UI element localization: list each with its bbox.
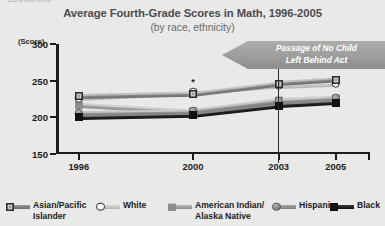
legend-marker-wrap xyxy=(272,202,281,211)
legend-marker-wrap xyxy=(96,202,105,211)
legend-item-white[interactable]: White xyxy=(96,200,146,212)
legend-label: Black xyxy=(357,200,380,211)
legend-marker-circle-open xyxy=(96,202,105,211)
chart-title: Average Fourth-Grade Scores in Math, 199… xyxy=(0,7,385,19)
legend-marker-square-black xyxy=(330,203,338,211)
x-tick xyxy=(78,154,80,160)
series-line-segment xyxy=(79,113,193,120)
legend-line xyxy=(176,205,192,209)
legend-marker-circle-shaded xyxy=(272,202,281,211)
banner-line-1: Passage of No Child xyxy=(276,43,357,53)
chart-legend: Asian/Pacific IslanderWhiteAmerican Indi… xyxy=(0,186,385,222)
banner-line-2: Left Behind Act xyxy=(286,55,348,65)
legend-line xyxy=(104,205,120,209)
x-tick xyxy=(335,154,337,160)
legend-marker-wrap xyxy=(168,203,176,211)
legend-swatch xyxy=(96,201,120,212)
x-tick-label: 2000 xyxy=(183,161,204,172)
data-point xyxy=(189,111,197,119)
legend-item-black[interactable]: Black xyxy=(330,200,380,212)
x-tick-label: 2005 xyxy=(325,161,346,172)
y-tick-label: 300 xyxy=(32,39,48,50)
asterisk-annotation: * xyxy=(191,78,195,87)
x-tick-label: 1996 xyxy=(68,161,89,172)
legend-item-asian-pacific-islander[interactable]: Asian/Pacific Islander xyxy=(6,200,87,222)
legend-label: American Indian/ Alaska Native xyxy=(195,200,264,222)
data-point xyxy=(75,113,83,121)
legend-label: White xyxy=(123,200,146,211)
legend-swatch xyxy=(168,201,192,212)
chart-subtitle: (by race, ethnicity) xyxy=(0,22,385,33)
legend-swatch xyxy=(6,201,30,212)
legend-item-american-indian-alaska-native[interactable]: American Indian/ Alaska Native xyxy=(168,200,264,222)
x-tick-end xyxy=(368,154,370,160)
legend-line xyxy=(338,205,354,209)
cutoff-header-text: EDUCATION xyxy=(8,0,51,3)
legend-label: Asian/Pacific Islander xyxy=(33,200,87,222)
legend-marker-wrap xyxy=(6,203,14,211)
banner-text: Passage of No Child Left Behind Act xyxy=(252,43,381,66)
x-tick xyxy=(192,154,194,160)
y-tick-label: 150 xyxy=(32,149,48,160)
y-tick-label: 200 xyxy=(32,112,48,123)
legend-swatch xyxy=(330,201,354,212)
legend-marker-square-dark-ring xyxy=(6,203,14,211)
data-point xyxy=(332,99,340,107)
legend-marker-wrap xyxy=(330,203,338,211)
legend-swatch xyxy=(272,201,296,212)
legend-line xyxy=(280,205,296,209)
y-tick-label: 250 xyxy=(32,75,48,86)
series-line-segment xyxy=(193,103,279,117)
arrow-left-icon xyxy=(222,41,248,69)
nclb-annotation-banner: Passage of No Child Left Behind Act xyxy=(222,41,385,69)
legend-line xyxy=(14,205,30,209)
legend-marker-square-gray xyxy=(168,203,176,211)
legend-item-hispanic[interactable]: Hispanic xyxy=(272,200,335,212)
chart-canvas: EDUCATION Average Fourth-Grade Scores in… xyxy=(0,0,385,226)
series-line-segment xyxy=(279,100,336,108)
